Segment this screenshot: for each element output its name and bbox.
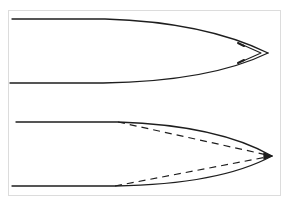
dashed-line-bottom bbox=[115, 156, 272, 186]
upper-profile-tick-top bbox=[238, 43, 244, 46]
dashed-line-top bbox=[118, 122, 272, 156]
lower-profile bbox=[12, 122, 272, 186]
lower-profile-top-edge bbox=[16, 122, 272, 156]
lower-profile-bottom-edge bbox=[12, 156, 272, 186]
upper-profile-bottom-edge bbox=[10, 53, 268, 83]
upper-profile-top-edge bbox=[12, 19, 268, 53]
upper-profile bbox=[10, 19, 268, 83]
straight-approximation bbox=[115, 122, 272, 186]
profile-comparison-diagram bbox=[0, 0, 288, 211]
upper-profile-inner-chevron bbox=[243, 45, 261, 61]
